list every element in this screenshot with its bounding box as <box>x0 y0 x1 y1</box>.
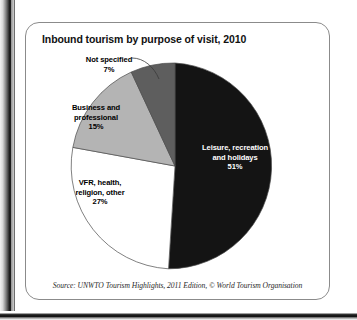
pie-label-business: Business andprofessional15% <box>50 103 142 132</box>
book-spine-gradient <box>0 0 9 320</box>
pie-slice-vfr <box>71 147 175 268</box>
source-note: Source: UNWTO Tourism Highlights, 2011 E… <box>26 281 329 290</box>
pie-chart: Not specified7% Business andprofessional… <box>26 23 331 301</box>
pie-label-vfr: VFR, health,religion, other27% <box>48 178 152 207</box>
pie-label-not-specified: Not specified7% <box>63 55 155 74</box>
page-scan: Inbound tourism by purpose of visit, 201… <box>0 0 357 320</box>
book-spine-line-edge <box>14 0 15 320</box>
pie-label-leisure: Leisure, recreationand holidays51% <box>174 143 296 172</box>
page-bottom-edge-line <box>0 316 357 317</box>
figure-card: Inbound tourism by purpose of visit, 201… <box>25 22 330 300</box>
